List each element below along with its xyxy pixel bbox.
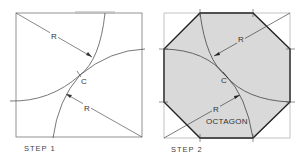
step-2-panel: R R C OCTAGON STEP 2 — [151, 0, 302, 162]
radius-label-bottom: R — [84, 104, 90, 113]
center-label: C — [221, 76, 227, 85]
square-outline — [16, 13, 142, 137]
radius-label-top: R — [238, 35, 244, 44]
step-2-diagram: R R C OCTAGON STEP 2 — [151, 0, 302, 162]
radius-label-bottom: R — [213, 105, 219, 114]
step-2-caption: STEP 2 — [171, 145, 203, 154]
center-label: C — [81, 77, 87, 86]
radius-line-bottom — [66, 94, 142, 137]
arrowhead-top — [86, 52, 92, 57]
arc-2 — [10, 49, 145, 101]
arrowhead-bottom — [66, 94, 72, 98]
step-1-panel: R R C STEP 1 — [0, 0, 151, 162]
octagon-label: OCTAGON — [206, 117, 248, 126]
step-1-caption: STEP 1 — [24, 144, 56, 153]
step-1-diagram: R R C STEP 1 — [0, 0, 151, 162]
top-edge-shadow — [75, 11, 115, 14]
radius-label-top: R — [51, 32, 57, 41]
